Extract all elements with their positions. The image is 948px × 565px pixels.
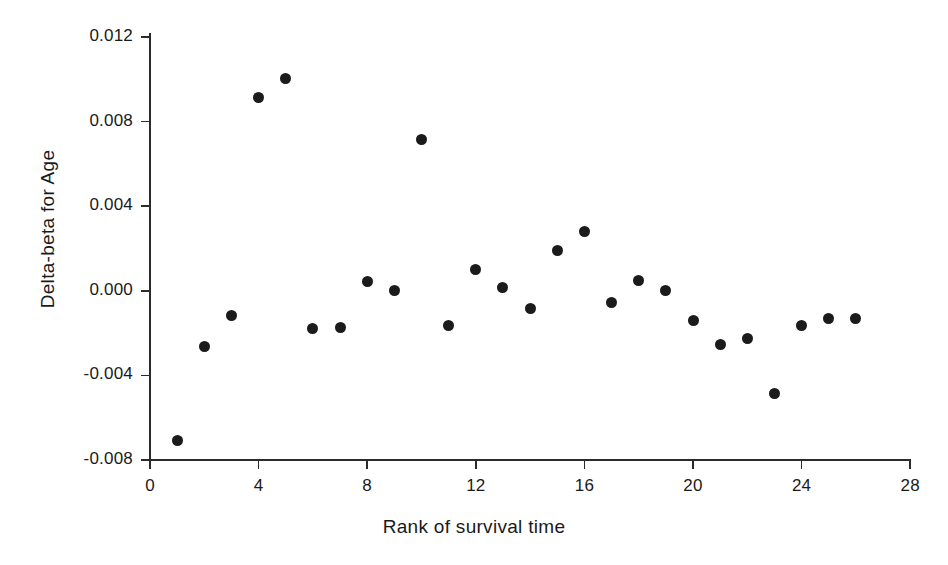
data-point	[389, 285, 400, 296]
data-point	[497, 282, 508, 293]
data-point	[253, 92, 264, 103]
data-point	[470, 264, 481, 275]
data-point	[769, 388, 780, 399]
data-point	[307, 323, 318, 334]
scatter-plot-figure: -0.008-0.0040.0000.0040.0080.012 0481216…	[0, 0, 948, 565]
x-axis-title: Rank of survival time	[0, 516, 948, 538]
data-point	[688, 315, 699, 326]
data-point	[416, 134, 427, 145]
data-point	[742, 333, 753, 344]
data-point	[606, 297, 617, 308]
data-point	[172, 435, 183, 446]
data-point	[850, 313, 861, 324]
data-point	[199, 341, 210, 352]
data-point	[796, 320, 807, 331]
data-point	[335, 322, 346, 333]
data-points-layer	[0, 0, 948, 565]
data-point	[633, 275, 644, 286]
data-point	[823, 313, 834, 324]
data-point	[552, 245, 563, 256]
data-point	[280, 73, 291, 84]
data-point	[715, 339, 726, 350]
data-point	[579, 226, 590, 237]
data-point	[226, 310, 237, 321]
data-point	[362, 276, 373, 287]
data-point	[525, 303, 536, 314]
data-point	[660, 285, 671, 296]
y-axis-title: Delta-beta for Age	[37, 79, 59, 379]
data-point	[443, 320, 454, 331]
